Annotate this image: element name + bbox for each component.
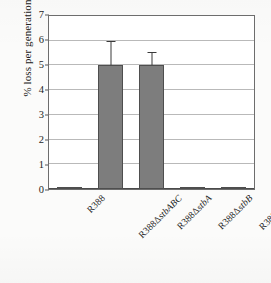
x-tick-label-0: R388 [85,193,107,215]
bar-R388 [57,187,82,189]
x-label-prefix-2: R388Δ [175,205,201,231]
bar-slot-4 [213,16,254,189]
error-bar-R388ΔstbABC [110,42,111,65]
x-label-gene-1: stbABC [156,193,184,221]
y-tick-label-4: 4 [39,85,44,96]
bar-slot-0 [49,16,90,189]
bar-R388ΔstbB [180,187,205,189]
x-tick-label-3: R388ΔstbB [216,193,255,232]
error-bar-R388ΔstbA [151,53,152,65]
bar-R388ΔstbC [221,187,246,189]
chart-figure: % loss per generation 01234567 R388R388Δ… [0,0,271,283]
bar-slot-3 [172,16,213,189]
y-tick-label-5: 5 [39,60,44,71]
y-tick-label-0: 0 [39,185,44,196]
bar-slot-2 [131,16,172,189]
x-axis-tick-labels: R388R388ΔstbABCR388ΔstbAR388ΔstbBR388Δst… [48,193,255,281]
bar-R388ΔstbABC [98,65,123,189]
y-tick-label-3: 3 [39,110,44,121]
plot-area [48,15,255,190]
error-cap-R388ΔstbABC [106,41,115,42]
y-axis-tick-labels: 01234567 [26,15,44,190]
x-tick-label-4: R388ΔstbC [257,193,271,232]
y-tick-label-7: 7 [39,10,44,21]
x-label-prefix-4: R388Δ [257,206,271,232]
y-tick-label-6: 6 [39,35,44,46]
y-tick-label-1: 1 [39,160,44,171]
x-tick-label-1: R388ΔstbABC [137,193,184,240]
y-tick-label-2: 2 [39,135,44,146]
bar-R388ΔstbA [139,65,164,189]
x-label-prefix-0: R388 [85,193,107,215]
bar-slot-1 [90,16,131,189]
bar-series [49,16,254,189]
error-cap-R388ΔstbA [147,52,156,53]
